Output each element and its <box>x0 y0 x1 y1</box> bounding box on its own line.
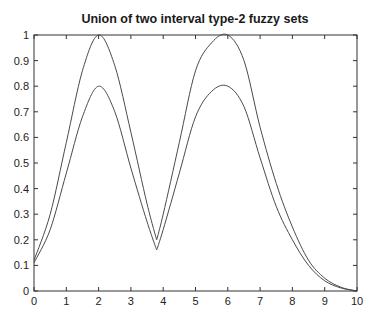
y-tick-label: 0.2 <box>14 234 29 246</box>
x-tick-label: 1 <box>63 295 69 307</box>
y-tick-label: 1 <box>23 29 29 41</box>
y-tick-label: 0.8 <box>14 80 29 92</box>
plot-area-frame <box>34 35 357 291</box>
y-tick-label: 0.1 <box>14 259 29 271</box>
x-tick-label: 5 <box>192 295 198 307</box>
y-tick-label: 0.7 <box>14 106 29 118</box>
x-tick-label: 10 <box>351 295 363 307</box>
y-tick-label: 0 <box>23 285 29 297</box>
upper-membership-curve <box>34 34 357 291</box>
line-chart: 00.10.20.30.40.50.60.70.80.91 0123456789… <box>0 0 380 319</box>
y-tick-label: 0.3 <box>14 208 29 220</box>
x-tick-label: 9 <box>322 295 328 307</box>
y-tick-label: 0.6 <box>14 131 29 143</box>
x-tick-label: 3 <box>128 295 134 307</box>
y-tick-label: 0.4 <box>14 183 29 195</box>
x-tick-label: 7 <box>257 295 263 307</box>
x-tick-label: 4 <box>160 295 166 307</box>
x-tick-label: 0 <box>31 295 37 307</box>
y-tick-label: 0.9 <box>14 55 29 67</box>
x-tick-label: 2 <box>96 295 102 307</box>
y-axis: 00.10.20.30.40.50.60.70.80.91 <box>14 29 357 297</box>
x-tick-label: 6 <box>225 295 231 307</box>
y-tick-label: 0.5 <box>14 157 29 169</box>
x-tick-label: 8 <box>289 295 295 307</box>
